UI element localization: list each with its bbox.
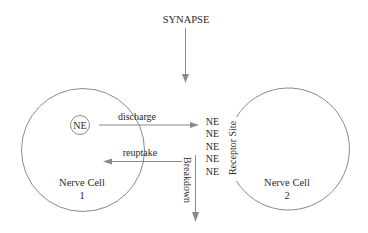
- cleft-ne-3: NE: [206, 141, 219, 152]
- reuptake-arrow: reuptake: [103, 147, 182, 165]
- nerve-cell-2-membrane: [237, 88, 350, 210]
- discharge-arrow: discharge: [99, 111, 199, 128]
- breakdown-arrow: Breakdown: [182, 155, 200, 222]
- nerve-cell-2-number: 2: [284, 190, 289, 201]
- nerve-cell-2: Nerve Cell 2: [237, 88, 350, 210]
- cleft-ne-2: NE: [206, 128, 219, 139]
- ne-vesicle-label: NE: [73, 120, 86, 131]
- cleft-ne-molecules: NE NE NE NE NE: [206, 116, 219, 177]
- breakdown-label: Breakdown: [182, 157, 193, 203]
- reuptake-label: reuptake: [123, 147, 158, 158]
- cleft-ne-5: NE: [206, 166, 219, 177]
- diagram-title: SYNAPSE: [163, 14, 210, 25]
- discharge-label: discharge: [118, 111, 157, 122]
- cleft-ne-1: NE: [206, 116, 219, 127]
- nerve-cell-1-number: 1: [79, 190, 84, 201]
- nerve-cell-2-label: Nerve Cell: [264, 177, 310, 188]
- nerve-cell-1-label: Nerve Cell: [59, 177, 105, 188]
- synapse-diagram: SYNAPSE Nerve Cell 1 NE discharge reupta…: [0, 0, 368, 233]
- cleft-ne-4: NE: [206, 153, 219, 164]
- receptor-site-label: Receptor Site: [227, 120, 238, 175]
- synapse-pointer-arrow: [182, 28, 189, 83]
- ne-vesicle: NE: [71, 116, 90, 135]
